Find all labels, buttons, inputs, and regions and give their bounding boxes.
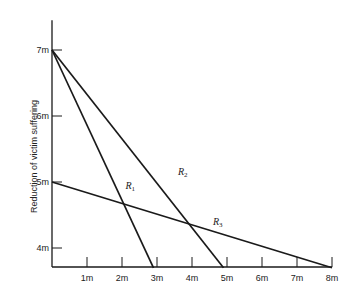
- series-line-r3: [52, 182, 332, 268]
- x-tick-label: 1m: [81, 273, 94, 283]
- x-tick-label: 6m: [256, 273, 269, 283]
- chart: 4m5m6m7m1m2m3m4m5m6m7m8mReduction of vic…: [0, 0, 360, 295]
- series-label-r2: R2: [177, 166, 188, 179]
- y-tick-label: 4m: [36, 243, 49, 253]
- x-tick-label: 2m: [116, 273, 129, 283]
- x-tick-label: 4m: [186, 273, 199, 283]
- series-label-r1: R1: [125, 180, 136, 193]
- y-tick-label: 7m: [36, 45, 49, 55]
- y-axis-title: Reduction of victim suffering: [29, 100, 39, 213]
- x-tick-label: 5m: [221, 273, 234, 283]
- plot-area: 4m5m6m7m1m2m3m4m5m6m7m8mReduction of vic…: [0, 0, 360, 295]
- series-label-r3: R3: [212, 216, 223, 229]
- x-tick-label: 3m: [151, 273, 164, 283]
- x-tick-label: 7m: [291, 273, 304, 283]
- x-tick-label: 8m: [326, 273, 339, 283]
